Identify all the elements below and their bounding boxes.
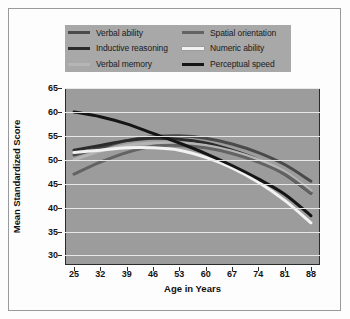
gridline [65,255,320,256]
x-axis-tick-mark [100,267,101,271]
y-axis-title: Mean Standardized Score [9,88,25,265]
x-axis-labels: 25323946536067748188 [65,267,320,281]
legend-swatch-icon [68,47,90,50]
legend-item: Verbal ability [65,25,178,41]
x-axis-tick-mark [285,267,286,271]
legend-swatch-icon [182,63,204,66]
x-axis-tick-mark [153,267,154,271]
legend-label: Perceptual speed [210,59,275,69]
gridline [65,160,320,161]
legend-swatch-icon [68,63,90,66]
gridline [65,208,320,209]
y-axis-tick-mark [58,184,62,185]
x-axis-tick-mark [311,267,312,271]
legend-item: Perceptual speed [178,56,291,72]
y-axis-tick-mark [58,112,62,113]
x-axis-title: Age in Years [65,283,320,294]
chart-lines [65,88,320,265]
x-axis-tick-mark [127,267,128,271]
y-axis-tick-label: 55 [48,131,58,141]
x-axis-tick-mark [179,267,180,271]
y-axis-tick-mark [58,160,62,161]
legend-item: Spatial orientation [178,25,291,41]
plot-area [65,88,320,265]
chart-legend: Verbal ability Spatial orientation Induc… [65,25,291,72]
legend-label: Inductive reasoning [96,43,168,53]
legend-item: Verbal memory [65,56,178,72]
legend-label: Numeric ability [210,43,264,53]
y-axis-tick-label: 45 [48,179,58,189]
legend-swatch-icon [182,31,204,34]
y-axis-tick-mark [58,232,62,233]
y-axis-tick-mark [58,136,62,137]
x-axis-tick-mark [74,267,75,271]
legend-label: Spatial orientation [210,28,276,38]
y-axis-tick-label: 65 [48,83,58,93]
legend-item: Inductive reasoning [65,41,178,57]
legend-item: Numeric ability [178,41,291,57]
gridline [65,184,320,185]
y-axis-tick-label: 30 [48,250,58,260]
y-axis-tick-label: 40 [48,203,58,213]
gridline [65,112,320,113]
y-axis-tick-mark [58,255,62,256]
y-axis-tick-label: 50 [48,155,58,165]
gridline [65,136,320,137]
gridline [65,232,320,233]
gridline [65,88,320,89]
x-axis-tick-mark [258,267,259,271]
legend-swatch-icon [182,47,204,50]
legend-label: Verbal memory [96,59,152,69]
x-axis-tick-mark [232,267,233,271]
y-axis-tick-label: 60 [48,107,58,117]
x-axis-tick-mark [206,267,207,271]
figure: Verbal ability Spatial orientation Induc… [0,0,350,319]
y-axis-tick-label: 35 [48,227,58,237]
legend-label: Verbal ability [96,28,143,38]
legend-swatch-icon [68,31,90,34]
y-axis-labels: 6560555045403530 [28,88,62,265]
series-line [74,112,311,216]
y-axis-tick-mark [58,88,62,89]
y-axis-tick-mark [58,208,62,209]
